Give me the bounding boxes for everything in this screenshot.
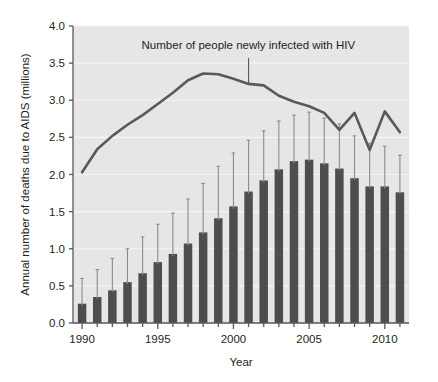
bar-2000: [229, 206, 237, 323]
bar-2007: [335, 169, 343, 323]
bar-2009: [365, 186, 373, 323]
y-tick-label: 1.0: [49, 243, 65, 255]
y-tick-label: 1.5: [49, 206, 65, 218]
x-axis-title: Year: [229, 356, 252, 368]
bar-2005: [305, 160, 313, 323]
bar-2002: [259, 180, 267, 323]
y-tick-label: 3.0: [49, 94, 65, 106]
y-tick-label: 0.0: [49, 317, 65, 329]
chart-figure: Number of people newly infected with HIV…: [0, 0, 438, 382]
aids-deaths-hiv-infections-chart: Number of people newly infected with HIV…: [0, 0, 438, 382]
bar-1999: [214, 218, 222, 323]
y-tick-label: 4.0: [49, 20, 65, 32]
bar-2001: [244, 192, 252, 323]
x-tick-label: 1995: [145, 333, 171, 345]
y-tick-label: 3.5: [49, 57, 65, 69]
bar-1992: [108, 290, 116, 323]
bar-1994: [138, 273, 146, 323]
x-tick-label: 2010: [372, 333, 398, 345]
bar-2006: [320, 163, 328, 323]
bar-1998: [199, 232, 207, 323]
bar-1997: [184, 244, 192, 323]
bar-2008: [350, 178, 358, 323]
bar-1996: [169, 254, 177, 323]
bar-2010: [381, 186, 389, 323]
x-tick-label: 1990: [69, 333, 95, 345]
bar-2011: [396, 192, 404, 323]
bar-1993: [123, 282, 131, 323]
y-tick-label: 2.5: [49, 131, 65, 143]
annotation-label-text: Number of people newly infected with HIV: [142, 39, 356, 51]
bar-1990: [78, 304, 86, 323]
y-tick-label: 2.0: [49, 169, 65, 181]
y-tick-label: 0.5: [49, 280, 65, 292]
bar-1991: [93, 297, 101, 323]
y-axis-title: Annual number of deaths due to AIDS (mil…: [19, 53, 31, 295]
x-tick-label: 2000: [221, 333, 247, 345]
bar-2003: [275, 169, 283, 323]
bar-1995: [154, 262, 162, 323]
bar-2004: [290, 161, 298, 323]
x-tick-label: 2005: [296, 333, 322, 345]
